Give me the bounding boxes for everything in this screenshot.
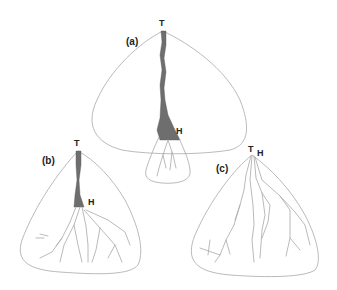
fan-outline-c (191, 155, 318, 277)
distal-lobe-a (146, 137, 190, 183)
incised-trench-a (157, 31, 180, 140)
apex-label-c: T (248, 144, 254, 154)
panel-b: T H (b) (20, 138, 140, 274)
panel-label-c: (c) (216, 163, 228, 174)
head-label-a: H (176, 126, 183, 136)
panel-a: T H (a) (92, 18, 247, 183)
panel-label-a: (a) (126, 36, 138, 47)
fan-diagram: T H (a) T H (b) (0, 0, 337, 290)
apex-label-a: T (159, 18, 165, 28)
panel-c: T H (c) (191, 144, 318, 277)
panel-label-b: (b) (42, 155, 55, 166)
apex-label-b: T (74, 138, 80, 148)
head-label-c: H (257, 148, 264, 158)
head-label-b: H (88, 197, 95, 207)
incised-trench-b (74, 151, 84, 207)
